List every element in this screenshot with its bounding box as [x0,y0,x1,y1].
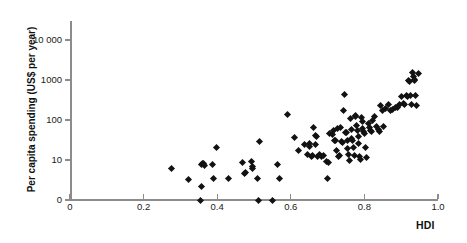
data-point [185,176,192,183]
data-point [168,164,175,171]
data-point [306,140,313,147]
y-axis-line [70,21,72,200]
data-point [401,101,408,108]
x-tick-mark [290,194,291,199]
x-tick-mark [143,194,144,199]
data-point [332,137,339,144]
data-point [295,147,302,154]
y-tick-label-wrap: 100 [0,115,62,125]
x-axis-line [70,199,438,201]
data-point [368,128,375,135]
data-point [351,152,358,159]
x-tick-mark [437,194,438,199]
data-point [274,161,281,168]
data-point [348,126,355,133]
data-point [323,158,330,165]
data-point [406,78,413,85]
y-tick-mark [65,39,70,40]
data-point [357,156,364,163]
data-point [314,153,321,160]
data-point [318,153,325,160]
y-tick-label: 10 [51,155,62,165]
data-point [344,137,351,144]
data-point [409,69,416,76]
y-tick-label: 10 000 [33,35,62,45]
data-point [336,152,343,159]
plot-area: 010100100010 000 00.20.40.60.81.0 Per ca… [0,0,467,243]
data-point [338,138,345,145]
x-tick-label: 1.0 [418,202,458,212]
data-point [343,128,350,135]
data-point [354,127,361,134]
data-point [404,93,411,100]
data-point [346,157,353,164]
y-axis-title: Per capita spending (US$ per year) [26,15,37,205]
y-tick-mark [65,159,70,160]
data-point [389,106,396,113]
data-point [392,104,399,111]
y-tick-label-wrap: 1000 [0,75,62,85]
data-point [361,130,368,137]
data-point [334,124,341,131]
data-point [349,137,356,144]
data-point [342,129,349,136]
data-point [398,93,405,100]
data-point [312,141,319,148]
data-point [382,105,389,112]
data-point [385,101,392,108]
data-point [394,104,401,111]
data-point [359,118,366,125]
data-point [352,112,359,119]
data-point [210,175,217,182]
data-point [352,113,359,120]
data-point [306,143,313,150]
scatter-chart-figure: 010100100010 000 00.20.40.60.81.0 Per ca… [0,0,467,243]
y-tick-mark [65,79,70,80]
y-tick-label: 1000 [41,75,62,85]
x-tick-label: 0.4 [197,202,237,212]
data-point [249,163,256,170]
y-tick-label: 0 [57,195,62,205]
data-point [408,101,415,108]
data-point [360,128,367,135]
data-point [355,133,362,140]
data-point [376,128,383,135]
data-point [400,100,407,107]
data-point [356,153,363,160]
data-point [353,122,360,129]
data-point [249,164,256,171]
data-point [248,158,255,165]
data-point [365,120,372,127]
data-point [387,107,394,114]
y-tick-mark [65,119,70,120]
data-point [396,101,403,108]
data-point [341,91,348,98]
data-point [403,92,410,99]
data-point [374,126,381,133]
data-point [213,144,220,151]
data-point [411,77,418,84]
data-point [335,153,342,160]
data-point [242,169,249,176]
data-point [304,151,311,158]
data-point [316,151,323,158]
data-point [380,123,387,130]
data-point [269,196,276,203]
data-point [337,124,344,131]
data-point [411,76,418,83]
data-point [369,116,376,123]
x-tick-mark [69,194,70,199]
data-point [241,170,248,177]
data-point [198,161,205,168]
data-point [312,132,319,139]
data-point [291,134,298,141]
x-tick-label: 0.8 [344,202,384,212]
data-point [359,125,366,132]
data-point [199,160,206,167]
data-point [339,139,346,146]
data-point [328,131,335,138]
y-tick-label-wrap: 10 000 [0,35,62,45]
data-point [256,138,263,145]
x-tick-label: 0.6 [271,202,311,212]
data-point [254,175,261,182]
